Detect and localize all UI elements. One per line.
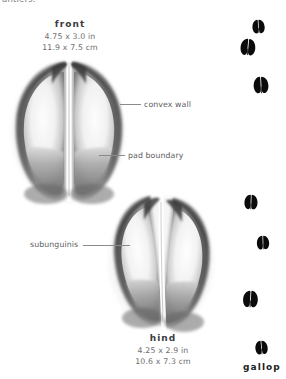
hoof-print-small-icon [256, 235, 271, 250]
hoof-print-small-icon [243, 194, 260, 211]
hoof-print-small-icon [237, 37, 258, 57]
gallop-gait-pattern [0, 0, 286, 379]
hoof-print-small-icon [251, 339, 271, 356]
hoof-print-small-icon [249, 18, 267, 34]
hoof-print-small-icon [240, 289, 262, 308]
track-guide-page: antlers. front 4.75 x 3.0 in 11.9 x 7.5 … [0, 0, 286, 379]
gallop-label: gallop [243, 362, 281, 372]
hoof-print-small-icon [252, 76, 271, 95]
